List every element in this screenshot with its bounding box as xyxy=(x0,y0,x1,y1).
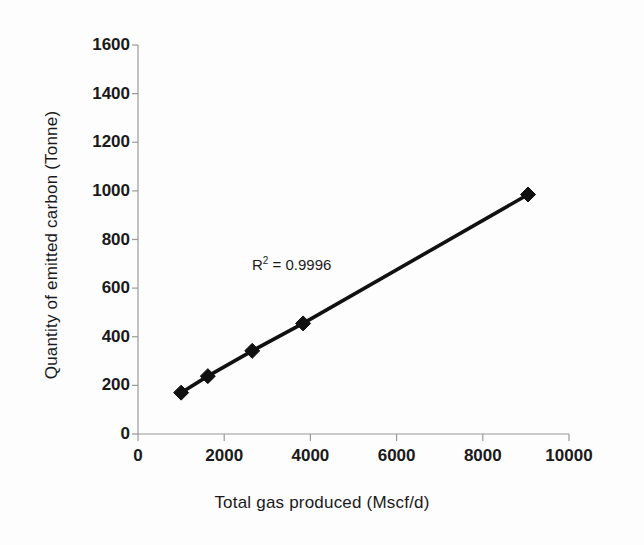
y-axis-tick-label: 1000 xyxy=(92,181,130,201)
series-line xyxy=(181,195,528,393)
data-point-marker xyxy=(245,343,260,358)
y-axis-tick-label: 1400 xyxy=(92,84,130,104)
y-axis-tick-label: 1600 xyxy=(92,35,130,55)
x-axis-tick-label: 8000 xyxy=(464,446,502,466)
y-axis-tick-label: 800 xyxy=(102,230,130,250)
x-axis-tick-label: 4000 xyxy=(291,446,329,466)
x-axis-tick-label: 6000 xyxy=(378,446,416,466)
y-axis-tick-label: 200 xyxy=(102,375,130,395)
x-axis-tick-label: 0 xyxy=(133,446,142,466)
y-axis-tick-label: 400 xyxy=(102,327,130,347)
chart-figure: 02004006008001000120014001600 0200040006… xyxy=(0,0,644,545)
data-point-marker xyxy=(296,316,311,331)
r-squared-annotation: R2 = 0.9996 xyxy=(252,255,331,273)
r-squared-prefix: R xyxy=(252,256,263,273)
y-axis-tick-label: 600 xyxy=(102,278,130,298)
x-axis-tick-label: 10000 xyxy=(545,446,592,466)
data-point-marker xyxy=(521,187,536,202)
x-axis-tick-label: 2000 xyxy=(205,446,243,466)
y-axis-title: Quantity of emitted carbon (Tonne) xyxy=(42,50,62,440)
y-axis-ticks xyxy=(132,45,138,434)
x-axis-tick-labels: 0200040006000800010000 xyxy=(0,446,644,470)
x-axis-title: Total gas produced (Mscf/d) xyxy=(0,493,644,513)
x-axis-ticks xyxy=(138,434,569,441)
y-axis-tick-label: 0 xyxy=(121,424,130,444)
y-axis-tick-label: 1200 xyxy=(92,132,130,152)
r-squared-value: = 0.9996 xyxy=(268,256,331,273)
